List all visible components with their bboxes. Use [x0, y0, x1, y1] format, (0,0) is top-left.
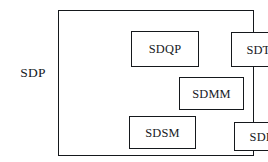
module-label-sdim: SDIM [250, 130, 268, 144]
module-box-sdtm: SDTM [231, 32, 268, 67]
module-box-sdmm: SDMM [179, 77, 244, 110]
module-label-sdmm: SDMM [192, 87, 231, 101]
outer-container-label: SDP [10, 65, 56, 81]
module-label-sdsm: SDSM [145, 126, 180, 140]
sdp-container-box: SDQP SDTM SDMM SDSM SDIM [58, 10, 254, 156]
module-label-sdtm: SDTM [246, 43, 268, 57]
module-box-sdim: SDIM [234, 122, 268, 151]
module-label-sdqp: SDQP [149, 42, 181, 56]
module-box-sdqp: SDQP [131, 31, 199, 67]
sdp-block-diagram: SDP SDQP SDTM SDMM SDSM SDIM [0, 0, 268, 162]
module-box-sdsm: SDSM [129, 116, 196, 149]
